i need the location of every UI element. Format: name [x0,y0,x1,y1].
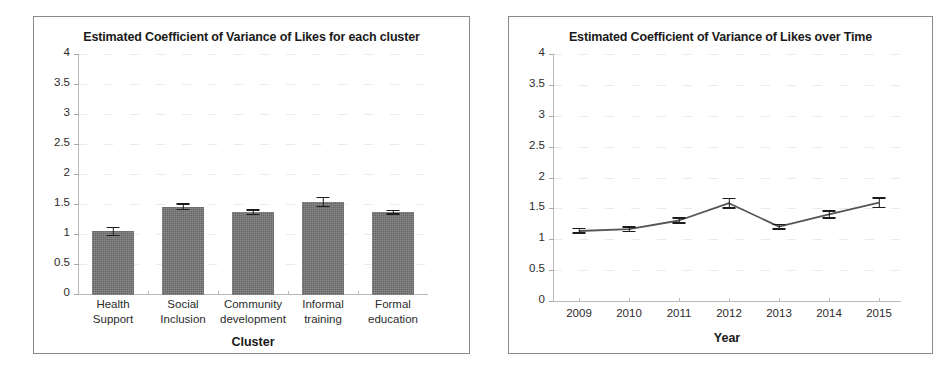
bar-category-label: Social Inclusion [148,297,218,326]
bar-chart-title: Estimated Coefficient of Variance of Lik… [34,30,469,44]
line-year-labels: 2009201020112012201320142015 [553,307,901,327]
x-axis-tick-mark [729,298,730,302]
line-year-label: 2012 [716,307,742,319]
y-axis-tick-label: 3.5 [54,76,70,88]
error-bar-cap-bottom [873,207,886,209]
error-bar-cap-bottom [823,217,836,219]
error-bar-cap-bottom [623,231,636,233]
line-x-axis-title: Year [553,331,901,345]
line-year-label: 2009 [566,307,592,319]
y-axis-tick-label: 2.5 [54,136,70,148]
bar-category-label: Health Support [78,297,148,326]
y-axis-tick-label: 1.5 [54,196,70,208]
line-series [553,55,901,302]
error-bar-cap-bottom [317,206,330,208]
error-bar-cap-bottom [573,232,586,234]
line-plot-area: 00.511.522.533.54 [553,55,901,302]
bar[interactable] [232,212,274,295]
x-axis-tick-mark [829,298,830,302]
line-year-label: 2011 [667,307,692,319]
error-bar [773,224,786,230]
y-axis-tick-label: 0.5 [54,256,70,268]
line-year-label: 2013 [766,307,792,319]
error-bar [673,217,686,223]
error-bar-cap-bottom [673,222,686,224]
error-bar-cap-bottom [773,228,786,230]
bar-x-axis-title: Cluster [78,335,428,349]
bar-chart-panel: Estimated Coefficient of Variance of Lik… [33,16,470,354]
figure-container: Estimated Coefficient of Variance of Lik… [0,0,945,372]
error-bar-cap-bottom [177,209,190,211]
x-axis-tick-mark [879,298,880,302]
x-axis-tick-mark [779,298,780,302]
bar-series [78,55,428,295]
y-axis-tick-label: 2 [539,170,545,182]
bar-category-label: Formal education [358,297,428,326]
y-axis-tick-label: 2.5 [529,139,545,151]
bar[interactable] [92,231,134,295]
error-bar [723,198,736,209]
bar-slot [358,55,428,295]
y-axis-tick-label: 1.5 [529,200,545,212]
x-axis-tick-mark [218,291,219,295]
y-axis-tick-label: 3 [539,108,545,120]
x-axis-tick-mark [288,291,289,295]
y-axis-tick-label: 1 [64,226,70,238]
error-bar-cap-bottom [247,214,260,216]
bar-category-label: Informal training [288,297,358,326]
bar[interactable] [372,212,414,295]
error-bar [387,210,400,215]
error-bar [107,227,120,237]
error-bar [823,210,836,219]
error-bar [873,197,886,208]
error-bar-cap-bottom [723,207,736,209]
y-axis-tick-label: 4 [64,46,70,58]
y-axis-tick-label: 2 [64,166,70,178]
line-year-label: 2014 [816,307,842,319]
line-year-label: 2015 [866,307,892,319]
y-axis-tick-label: 0 [539,293,545,305]
error-bar [247,209,260,215]
y-axis-tick-label: 3 [64,106,70,118]
bar[interactable] [302,202,344,295]
bar[interactable] [162,207,204,295]
error-bar [623,226,636,232]
bar-slot [78,55,148,295]
bar-plot-area: 00.511.522.533.54 [78,55,428,295]
y-axis-tick-label: 1 [539,231,545,243]
line-chart-title: Estimated Coefficient of Variance of Lik… [509,30,932,44]
error-bar [177,203,190,210]
x-axis-tick-mark [148,291,149,295]
error-bar [573,228,586,234]
x-axis-tick-mark [629,298,630,302]
x-axis-tick-mark [579,298,580,302]
bar-slot [218,55,288,295]
line-chart-panel: Estimated Coefficient of Variance of Lik… [508,16,933,354]
bar-slot [288,55,358,295]
x-axis-tick-mark [358,291,359,295]
error-bar-cap-bottom [387,213,400,215]
line-year-label: 2010 [616,307,642,319]
y-axis-tick-label: 3.5 [529,77,545,89]
y-axis-tick-label: 0.5 [529,262,545,274]
y-axis-tick-label: 4 [539,46,545,58]
error-bar-cap-bottom [107,235,120,237]
y-axis-tick-label: 0 [64,286,70,298]
x-axis-tick-mark [679,298,680,302]
bar-slot [148,55,218,295]
bar-category-label: Community development [218,297,288,326]
error-bar [317,197,330,208]
